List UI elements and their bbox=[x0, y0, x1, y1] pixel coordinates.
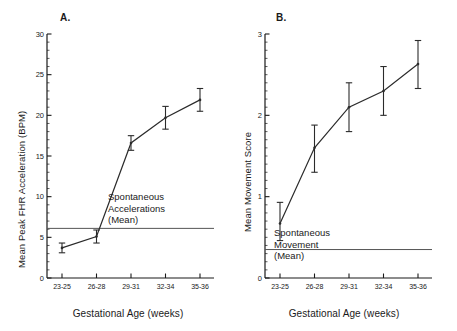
panel-b-x-axis-title: Gestational Age (weeks) bbox=[254, 308, 434, 319]
x-axis-tick-label: 32-34 bbox=[367, 283, 401, 290]
y-axis-tick-label: 0 bbox=[24, 274, 44, 283]
data-point-marker bbox=[313, 147, 316, 150]
data-point-marker bbox=[130, 142, 133, 145]
x-axis-tick-label: 29-31 bbox=[114, 283, 148, 290]
y-axis-tick-label: 30 bbox=[24, 30, 44, 39]
y-axis-tick-label: 1 bbox=[242, 192, 262, 201]
annotation-line: Movement bbox=[274, 239, 330, 251]
data-point-marker bbox=[348, 106, 351, 109]
figure-container: A. Mean Peak FHR Acceleration (BPM) Gest… bbox=[0, 0, 457, 331]
panel-b: B. Mean Movement Score Gestational Age (… bbox=[228, 0, 456, 331]
x-axis-tick-label: 23-25 bbox=[45, 283, 79, 290]
y-axis-tick-label: 3 bbox=[242, 30, 262, 39]
data-point-marker bbox=[199, 99, 202, 102]
data-point-marker bbox=[164, 116, 167, 119]
y-axis-tick-label: 10 bbox=[24, 192, 44, 201]
x-axis-tick-label: 35-36 bbox=[183, 283, 217, 290]
y-axis-tick-label: 0 bbox=[242, 274, 262, 283]
x-axis-tick-label: 35-36 bbox=[401, 283, 435, 290]
reference-line-annotation: SpontaneousMovement(Mean) bbox=[274, 227, 330, 262]
data-point-marker bbox=[95, 235, 98, 238]
x-axis-tick-label: 26-28 bbox=[80, 283, 114, 290]
reference-line-annotation: SpontaneousAccelerations(Mean) bbox=[108, 191, 165, 226]
annotation-line: Spontaneous bbox=[108, 191, 165, 203]
x-axis-tick-label: 26-28 bbox=[298, 283, 332, 290]
y-axis-tick-label: 15 bbox=[24, 152, 44, 161]
data-point-marker bbox=[61, 247, 64, 250]
data-point-marker bbox=[279, 222, 282, 225]
data-point-marker bbox=[417, 63, 420, 66]
x-axis-tick-label: 32-34 bbox=[149, 283, 183, 290]
x-axis-tick-label: 29-31 bbox=[332, 283, 366, 290]
panel-a-x-axis-title: Gestational Age (weeks) bbox=[38, 308, 218, 319]
data-series-line bbox=[62, 100, 200, 248]
annotation-line: (Mean) bbox=[274, 250, 330, 262]
y-axis-tick-label: 20 bbox=[24, 111, 44, 120]
x-axis-tick-label: 23-25 bbox=[263, 283, 297, 290]
data-point-marker bbox=[382, 90, 385, 93]
panel-b-plot bbox=[228, 0, 456, 331]
y-axis-tick-label: 5 bbox=[24, 233, 44, 242]
y-axis-tick-label: 2 bbox=[242, 111, 262, 120]
annotation-line: Spontaneous bbox=[274, 227, 330, 239]
y-axis-tick-label: 25 bbox=[24, 70, 44, 79]
panel-a: A. Mean Peak FHR Acceleration (BPM) Gest… bbox=[0, 0, 228, 331]
annotation-line: (Mean) bbox=[108, 214, 165, 226]
annotation-line: Accelerations bbox=[108, 203, 165, 215]
